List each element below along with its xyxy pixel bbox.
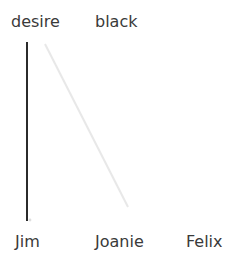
- axis-label-joanie: Joanie: [95, 234, 144, 250]
- axis-label-felix: Felix: [186, 234, 223, 250]
- chart-canvas: desire black Jim Joanie Felix: [0, 0, 239, 269]
- plot-area: [0, 0, 239, 269]
- axis-label-jim: Jim: [15, 234, 40, 250]
- series-line-black: [45, 44, 128, 207]
- endpoint-dot-icon: [29, 219, 32, 222]
